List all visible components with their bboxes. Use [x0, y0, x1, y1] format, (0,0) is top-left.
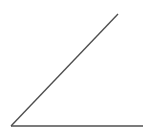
angle-diagram-canvas	[0, 0, 152, 135]
diagram-background	[0, 0, 152, 135]
angle-diagram-svg	[0, 0, 152, 135]
